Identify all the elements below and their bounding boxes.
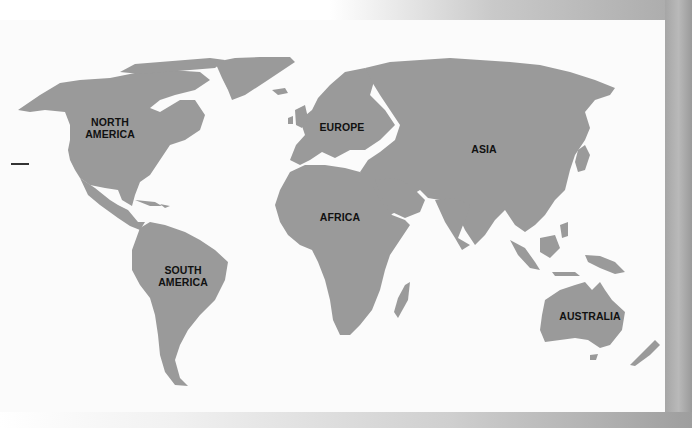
label-south-america-line2: AMERICA [152, 276, 214, 288]
label-north-america-line2: AMERICA [80, 128, 140, 140]
label-north-america-line1: NORTH [80, 116, 140, 128]
label-south-america-line1: SOUTH [152, 264, 214, 276]
madagascar [394, 282, 410, 318]
iceland [272, 88, 288, 95]
tasmania [590, 354, 598, 360]
label-europe: EUROPE [314, 121, 370, 133]
margin-tick-mark [11, 163, 29, 165]
label-north-america: NORTH AMERICA [80, 116, 140, 140]
label-australia: AUSTRALIA [550, 310, 630, 322]
caribbean-islands [135, 200, 170, 208]
new-zealand [630, 340, 660, 366]
label-africa: AFRICA [312, 211, 368, 223]
continent-south-america [132, 222, 228, 386]
label-south-america: SOUTH AMERICA [152, 264, 214, 288]
label-asia: ASIA [462, 143, 506, 155]
